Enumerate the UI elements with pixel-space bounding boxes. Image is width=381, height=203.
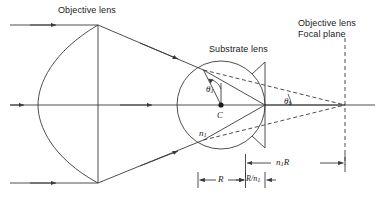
objective-lens-curved-surface <box>38 25 98 183</box>
dashed-ray-lower <box>204 105 346 140</box>
focal-plane-label-line2: Focal plane <box>298 29 346 40</box>
center-point-label: C <box>217 110 223 120</box>
objective-lens-label: Objective lens <box>58 5 116 16</box>
dimension-label-R-over-n1: R/n1 <box>246 174 260 183</box>
focal-plane-label-line1: Objective lens <box>298 18 356 29</box>
theta1-label: θ1 <box>206 84 214 94</box>
dimension-label-n1R: n1R <box>276 157 289 167</box>
converging-ray-bottom-arrow <box>140 151 178 166</box>
refracted-ray-bottom <box>204 105 266 140</box>
substrate-lens-label: Substrate lens <box>209 44 268 55</box>
center-point-dot <box>218 102 223 107</box>
converging-ray-top-arrow <box>140 43 178 59</box>
refractive-index-label: n1 <box>199 128 207 138</box>
dashed-ray-upper <box>204 70 346 105</box>
theta-b-label: θb <box>284 96 292 106</box>
optics-ray-diagram: Objective lens Substrate lens Objective … <box>0 0 381 203</box>
dimension-label-R: R <box>218 174 224 184</box>
